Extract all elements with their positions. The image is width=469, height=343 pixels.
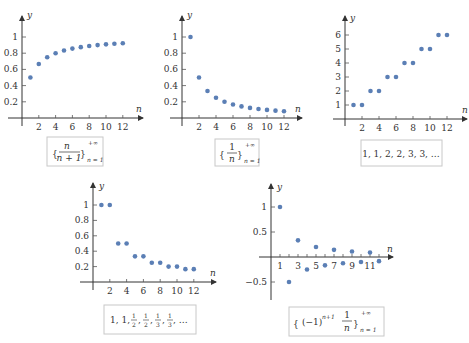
data-point xyxy=(121,41,126,46)
den: 3 xyxy=(156,321,160,328)
caption-box: 1, 1, 2, 2, 3, 3, … xyxy=(361,140,442,166)
y-tick-label: 0.6 xyxy=(4,64,19,74)
x-tick-label: 8 xyxy=(410,123,416,133)
y-tick-label: 0.4 xyxy=(4,81,19,91)
data-point xyxy=(239,104,244,109)
data-point xyxy=(287,280,292,285)
data-point xyxy=(150,260,155,265)
y-tick-label: 1 xyxy=(172,32,178,42)
caption-numerator: 1 xyxy=(344,310,350,320)
caption-box: 1, 1, 1 2 , 1 2 , 1 3 , 1 3 xyxy=(104,305,196,334)
data-point xyxy=(28,75,33,80)
num: 1 xyxy=(156,312,160,319)
den: 2 xyxy=(144,321,148,328)
y-ticks: 0.20.40.60.81 xyxy=(164,32,186,107)
data-point xyxy=(265,108,270,113)
data-point xyxy=(377,89,382,94)
y-tick-label: 0.8 xyxy=(4,48,19,58)
data-point xyxy=(323,263,328,268)
y-tick-label: 0.4 xyxy=(75,246,90,256)
y-tick-label: 2 xyxy=(335,86,341,96)
caption-sub: n = 1 xyxy=(360,326,377,333)
data-point xyxy=(419,47,424,52)
y-tick-label: 0.6 xyxy=(164,64,179,74)
data-point xyxy=(188,35,193,40)
y-tick-label: 0.2 xyxy=(4,97,18,107)
data-point xyxy=(192,267,197,272)
data-point xyxy=(428,47,433,52)
data-point xyxy=(256,107,261,112)
data-point xyxy=(377,259,382,264)
data-points xyxy=(278,205,382,285)
data-point xyxy=(205,89,210,94)
data-point xyxy=(282,109,287,114)
data-point xyxy=(112,41,117,46)
data-point xyxy=(124,241,129,246)
y-tick-label: 0.2 xyxy=(164,97,178,107)
caption-prefix: 1, 1, xyxy=(110,315,130,325)
data-point xyxy=(411,61,416,66)
right-brace: } xyxy=(353,319,359,329)
x-tick-label: 10 xyxy=(171,286,183,296)
x-tick-label: 2 xyxy=(36,122,42,132)
data-point xyxy=(62,48,67,53)
y-axis-label: y xyxy=(276,182,283,192)
right-brace: } xyxy=(80,149,86,159)
caption-sub: n = 1 xyxy=(244,157,261,164)
data-point xyxy=(158,260,163,265)
data-point xyxy=(79,45,84,50)
caption-sup: +∞ xyxy=(88,139,98,146)
caption-sup: +∞ xyxy=(361,309,371,316)
data-point xyxy=(197,75,202,80)
data-points xyxy=(351,33,449,108)
caption-sub: n = 1 xyxy=(87,156,104,163)
y-tick-label: 0.4 xyxy=(164,81,179,91)
x-tick-label: 10 xyxy=(100,122,112,132)
x-tick-label: 1 xyxy=(277,261,283,271)
x-axis-label: n xyxy=(210,268,216,278)
x-tick-label: 2 xyxy=(359,123,365,133)
data-point xyxy=(95,43,100,48)
y-axis-label: y xyxy=(26,10,33,20)
caption-denominator: n xyxy=(229,154,235,164)
caption-numerator: 1 xyxy=(229,142,235,152)
data-point xyxy=(214,95,219,100)
y-tick-label: 5 xyxy=(335,44,341,54)
data-point xyxy=(273,108,278,113)
data-point xyxy=(175,264,180,269)
x-tick-label: 5 xyxy=(313,261,319,271)
x-tick-label: 7 xyxy=(331,261,337,271)
data-point xyxy=(53,51,58,56)
data-point xyxy=(314,245,319,250)
y-tick-label: 1 xyxy=(335,100,341,110)
x-tick-label: 10 xyxy=(424,123,436,133)
caption-box: { n n + 1 } +∞ n = 1 xyxy=(47,137,104,166)
x-axis-label: n xyxy=(462,105,468,115)
y-axis-label: y xyxy=(186,10,193,20)
x-tick-label: 8 xyxy=(247,122,253,132)
caption-exponent: n+1 xyxy=(322,313,335,320)
data-point xyxy=(341,261,346,266)
x-tick-label: 11 xyxy=(364,261,375,271)
y-tick-label: 0.8 xyxy=(164,48,179,58)
y-tick-label: 0.6 xyxy=(75,231,90,241)
data-points xyxy=(188,35,286,114)
left-brace: { xyxy=(293,319,299,329)
x-tick-label: 2 xyxy=(107,286,113,296)
x-tick-label: 6 xyxy=(393,123,399,133)
x-tick-label: 12 xyxy=(441,123,452,133)
num: 1 xyxy=(168,312,172,319)
data-point xyxy=(368,250,373,255)
y-axis-label: y xyxy=(98,181,105,191)
data-points xyxy=(99,203,196,272)
data-point xyxy=(351,103,356,108)
data-point xyxy=(368,89,373,94)
x-tick-label: 4 xyxy=(376,123,382,133)
caption-suffix: , … xyxy=(173,315,188,325)
y-tick-label: 0.8 xyxy=(75,215,90,225)
caption-numerator: n xyxy=(64,141,70,151)
data-point xyxy=(394,75,399,80)
x-tick-label: 8 xyxy=(157,286,163,296)
data-point xyxy=(402,61,407,66)
plot-1-1-2-2-3-3: y n 123456 24681012 1, 1, 2, 2, 3, 3, … xyxy=(333,13,468,166)
